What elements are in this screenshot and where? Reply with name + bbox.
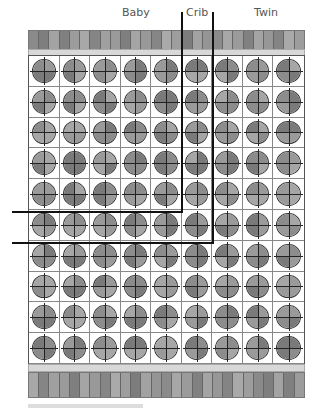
circle-quadrant bbox=[186, 122, 197, 133]
quadrant-circle bbox=[246, 182, 270, 206]
stripe bbox=[121, 373, 131, 397]
grid-cell bbox=[151, 333, 182, 364]
stripe bbox=[223, 373, 233, 397]
circle-quadrant bbox=[216, 337, 227, 348]
circle-quadrant bbox=[289, 245, 300, 256]
circle-quadrant bbox=[258, 214, 269, 225]
stripe bbox=[274, 31, 284, 49]
circle-quadrant bbox=[216, 225, 227, 236]
quadrant-circle bbox=[246, 121, 270, 145]
circle-cross-v bbox=[74, 60, 75, 82]
quadrant-circle bbox=[93, 90, 117, 114]
grid-cell bbox=[273, 241, 304, 272]
circle-quadrant bbox=[258, 122, 269, 133]
circle-quadrant bbox=[33, 194, 44, 205]
circle-quadrant bbox=[155, 287, 166, 298]
circle-cross-v bbox=[135, 91, 136, 113]
stripe bbox=[29, 373, 39, 397]
quadrant-circle bbox=[185, 305, 209, 329]
circle-cross-v bbox=[197, 152, 198, 174]
circle-quadrant bbox=[227, 133, 238, 144]
circle-quadrant bbox=[64, 133, 75, 144]
grid-cell bbox=[273, 56, 304, 87]
circle-cross-v bbox=[166, 276, 167, 298]
quadrant-circle bbox=[63, 182, 87, 206]
quadrant-circle bbox=[154, 121, 178, 145]
circle-quadrant bbox=[64, 183, 75, 194]
circle-quadrant bbox=[247, 183, 258, 194]
circle-quadrant bbox=[33, 245, 44, 256]
grid-cell bbox=[90, 87, 121, 118]
stripe bbox=[162, 373, 172, 397]
circle-quadrant bbox=[186, 306, 197, 317]
stripe bbox=[152, 31, 162, 49]
circle-cross-v bbox=[258, 183, 259, 205]
circle-quadrant bbox=[64, 225, 75, 236]
grid-cell bbox=[29, 148, 60, 179]
circle-quadrant bbox=[227, 194, 238, 205]
circle-quadrant bbox=[155, 133, 166, 144]
circle-quadrant bbox=[197, 163, 208, 174]
circle-quadrant bbox=[258, 256, 269, 267]
circle-quadrant bbox=[247, 306, 258, 317]
circle-quadrant bbox=[94, 287, 105, 298]
circle-quadrant bbox=[135, 214, 146, 225]
grid-cell bbox=[243, 118, 274, 149]
circle-quadrant bbox=[44, 152, 55, 163]
circle-quadrant bbox=[247, 337, 258, 348]
circle-quadrant bbox=[135, 348, 146, 359]
circle-quadrant bbox=[33, 256, 44, 267]
circle-quadrant bbox=[166, 163, 177, 174]
grid-cell bbox=[121, 210, 152, 241]
circle-quadrant bbox=[227, 306, 238, 317]
stripe bbox=[264, 373, 274, 397]
grid-cell bbox=[151, 118, 182, 149]
circle-quadrant bbox=[197, 276, 208, 287]
quadrant-circle bbox=[185, 275, 209, 299]
circle-quadrant bbox=[227, 163, 238, 174]
circle-quadrant bbox=[277, 194, 288, 205]
circle-cross-v bbox=[105, 245, 106, 267]
circle-quadrant bbox=[33, 91, 44, 102]
circle-quadrant bbox=[105, 183, 116, 194]
circle-quadrant bbox=[186, 214, 197, 225]
circle-quadrant bbox=[44, 71, 55, 82]
grid-cell bbox=[90, 241, 121, 272]
circle-cross-v bbox=[289, 183, 290, 205]
quadrant-circle bbox=[276, 151, 301, 175]
grid-cell bbox=[212, 87, 243, 118]
circle-cross-v bbox=[258, 214, 259, 236]
circle-quadrant bbox=[258, 276, 269, 287]
circle-cross-v bbox=[105, 91, 106, 113]
circle-quadrant bbox=[227, 225, 238, 236]
circle-quadrant bbox=[135, 317, 146, 328]
quadrant-circle bbox=[154, 336, 178, 360]
grid-cell bbox=[121, 87, 152, 118]
circle-quadrant bbox=[64, 194, 75, 205]
quadrant-circle bbox=[276, 59, 301, 83]
circle-quadrant bbox=[289, 60, 300, 71]
grid-cell bbox=[243, 241, 274, 272]
circle-quadrant bbox=[94, 183, 105, 194]
circle-quadrant bbox=[277, 122, 288, 133]
circle-quadrant bbox=[166, 152, 177, 163]
circle-cross-v bbox=[135, 245, 136, 267]
circle-quadrant bbox=[74, 306, 85, 317]
circle-cross-v bbox=[135, 214, 136, 236]
circle-quadrant bbox=[227, 183, 238, 194]
circle-quadrant bbox=[125, 214, 136, 225]
circle-quadrant bbox=[227, 91, 238, 102]
quadrant-circle bbox=[185, 244, 209, 268]
circle-quadrant bbox=[94, 256, 105, 267]
grid-cell bbox=[151, 179, 182, 210]
quadrant-circle bbox=[246, 90, 270, 114]
circle-cross-v bbox=[44, 122, 45, 144]
circle-quadrant bbox=[33, 163, 44, 174]
grid-cell bbox=[151, 272, 182, 303]
circle-quadrant bbox=[289, 122, 300, 133]
circle-quadrant bbox=[105, 256, 116, 267]
circle-quadrant bbox=[289, 337, 300, 348]
circle-quadrant bbox=[247, 91, 258, 102]
circle-quadrant bbox=[247, 276, 258, 287]
circle-quadrant bbox=[74, 214, 85, 225]
